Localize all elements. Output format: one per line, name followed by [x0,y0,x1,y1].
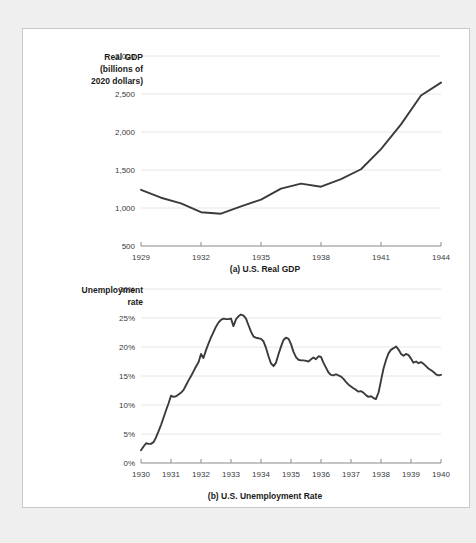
svg-text:1941: 1941 [372,253,390,262]
unemployment-y-axis-title-line-1: Unemployment [82,285,144,295]
unemployment-x-tickmarks [141,459,441,463]
svg-text:2,500: 2,500 [115,90,136,99]
svg-text:1940: 1940 [432,470,450,479]
gdp-x-tick-labels: 192919321935193819411944 [132,253,450,262]
svg-text:1930: 1930 [132,470,150,479]
svg-text:1931: 1931 [162,470,180,479]
svg-text:20%: 20% [119,343,135,352]
unemployment-gridlines [141,289,441,434]
gdp-y-axis-title-line-1: Real GDP [104,52,143,62]
unemployment-y-axis-title-line-2: rate [127,297,143,307]
unemployment-chart-caption: (b) U.S. Unemployment Rate [208,491,323,501]
unemployment-x-tick-labels: 1930193119321933193419351936193719381939… [132,470,450,479]
svg-text:10%: 10% [119,401,135,410]
figure-panel: 5001,0001,5002,0002,5003,000 19291932193… [22,28,470,508]
svg-text:1936: 1936 [312,470,330,479]
gdp-chart-caption: (a) U.S. Real GDP [230,264,301,274]
unemployment-series-line [141,315,441,451]
svg-text:1935: 1935 [282,470,300,479]
svg-text:500: 500 [122,242,136,251]
svg-text:1937: 1937 [342,470,360,479]
svg-text:15%: 15% [119,372,135,381]
gdp-series-line [141,83,441,214]
svg-text:1933: 1933 [222,470,240,479]
svg-text:1932: 1932 [192,470,210,479]
gdp-x-tickmarks [141,242,441,246]
chart-us-unemployment-rate: 0%5%10%15%20%25%30% 19301931193219331934… [23,277,471,509]
svg-text:0%: 0% [123,459,135,468]
svg-text:1934: 1934 [252,470,270,479]
svg-text:1944: 1944 [432,253,450,262]
svg-text:1938: 1938 [372,470,390,479]
figure-page: 5001,0001,5002,0002,5003,000 19291932193… [0,0,476,543]
svg-text:25%: 25% [119,314,135,323]
svg-text:1932: 1932 [192,253,210,262]
svg-text:1939: 1939 [402,470,420,479]
gdp-y-axis-title-line-2: (billions of [100,64,143,74]
gdp-y-axis-title-line-3: 2020 dollars) [91,76,143,86]
unemployment-y-tick-labels: 0%5%10%15%20%25%30% [119,285,135,468]
svg-text:1938: 1938 [312,253,330,262]
svg-text:1,000: 1,000 [115,204,136,213]
svg-text:1,500: 1,500 [115,166,136,175]
svg-text:1929: 1929 [132,253,150,262]
svg-text:2,000: 2,000 [115,128,136,137]
svg-text:1935: 1935 [252,253,270,262]
chart-us-real-gdp: 5001,0001,5002,0002,5003,000 19291932193… [23,29,471,277]
svg-text:5%: 5% [123,430,135,439]
